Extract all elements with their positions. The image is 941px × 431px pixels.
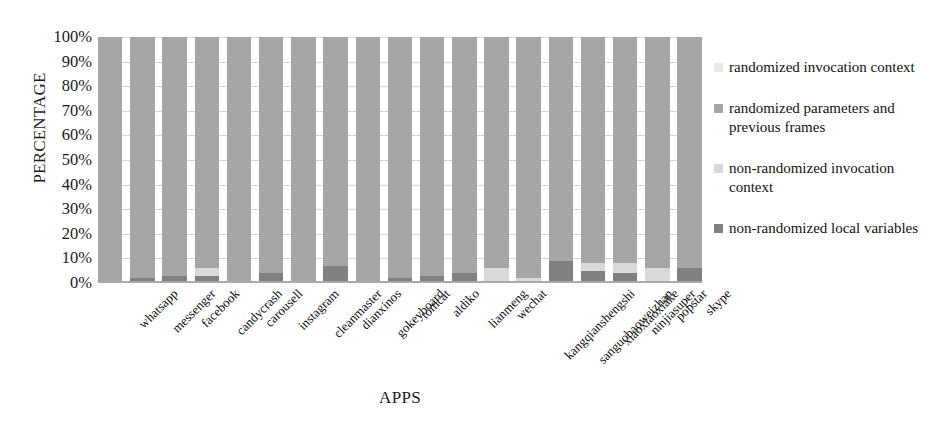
bar-segment	[388, 37, 412, 278]
bar-segment	[516, 37, 540, 278]
bar-segment	[356, 37, 380, 283]
x-axis-tick: skype	[702, 286, 735, 319]
legend: randomized invocation contextrandomized …	[714, 58, 939, 260]
bar-column[interactable]	[130, 37, 154, 283]
legend-label: non-randomized invocation context	[729, 159, 929, 197]
bar-column[interactable]	[227, 37, 251, 283]
y-axis-tick: 20%	[36, 225, 92, 243]
legend-label: randomized parameters and previous frame…	[729, 99, 929, 137]
bar-segment	[581, 37, 605, 263]
bar-segment	[130, 37, 154, 278]
plot-area	[98, 37, 702, 283]
y-axis-tick: 60%	[36, 126, 92, 144]
legend-label: randomized invocation context	[729, 58, 915, 77]
y-axis-tick: 100%	[36, 28, 92, 46]
legend-swatch-icon	[714, 224, 723, 233]
bar-column[interactable]	[259, 37, 283, 283]
bar-column[interactable]	[549, 37, 573, 283]
y-axis-tick-labels: 100%90%80%70%60%50%40%30%20%10%0%	[36, 28, 92, 293]
bar-segment	[613, 37, 637, 263]
bar-segment	[549, 37, 573, 261]
y-axis-tick: 10%	[36, 249, 92, 267]
bar-segment	[549, 261, 573, 283]
bar-column[interactable]	[98, 37, 122, 283]
x-axis-line	[98, 281, 702, 283]
bar-column[interactable]	[645, 37, 669, 283]
bar-segment	[484, 268, 508, 280]
y-axis-tick: 30%	[36, 200, 92, 218]
bar-segment	[259, 37, 283, 273]
bar-segment	[323, 266, 347, 283]
bar-group	[98, 37, 702, 283]
legend-item[interactable]: randomized invocation context	[714, 58, 939, 77]
bar-column[interactable]	[356, 37, 380, 283]
bar-column[interactable]	[291, 37, 315, 283]
bar-column[interactable]	[388, 37, 412, 283]
bar-column[interactable]	[613, 37, 637, 283]
stacked-bar-chart: PERCENTAGE 100%90%80%70%60%50%40%30%20%1…	[0, 0, 941, 431]
bar-segment	[420, 37, 444, 276]
legend-swatch-icon	[714, 63, 723, 72]
bar-segment	[291, 37, 315, 283]
legend-swatch-icon	[714, 104, 723, 113]
bar-segment	[645, 37, 669, 268]
y-axis-tick: 40%	[36, 176, 92, 194]
y-axis-tick: 50%	[36, 151, 92, 169]
x-axis-title: APPS	[98, 388, 702, 408]
bar-segment	[162, 37, 186, 276]
legend-item[interactable]: non-randomized local variables	[714, 219, 939, 238]
bar-column[interactable]	[323, 37, 347, 283]
bar-column[interactable]	[677, 37, 701, 283]
y-axis-tick: 0%	[36, 274, 92, 292]
legend-item[interactable]: randomized parameters and previous frame…	[714, 99, 939, 137]
legend-item[interactable]: non-randomized invocation context	[714, 159, 939, 197]
bar-column[interactable]	[162, 37, 186, 283]
bar-segment	[613, 263, 637, 273]
bar-segment	[677, 37, 701, 268]
x-axis-tick: aldiko	[448, 286, 482, 320]
bar-column[interactable]	[420, 37, 444, 283]
bar-segment	[227, 37, 251, 281]
bar-column[interactable]	[452, 37, 476, 283]
bar-segment	[98, 37, 122, 283]
y-axis-tick: 90%	[36, 53, 92, 71]
bar-segment	[195, 37, 219, 268]
legend-label: non-randomized local variables	[729, 219, 918, 238]
x-axis-tick-labels: whatsappmessengerfacebookcandycrashcarou…	[98, 286, 702, 382]
bar-segment	[323, 37, 347, 266]
bar-column[interactable]	[581, 37, 605, 283]
bar-column[interactable]	[195, 37, 219, 283]
bar-segment	[581, 263, 605, 270]
bar-segment	[484, 37, 508, 268]
bar-segment	[452, 37, 476, 273]
y-axis-tick: 70%	[36, 102, 92, 120]
y-axis-tick: 80%	[36, 77, 92, 95]
bar-segment	[195, 268, 219, 275]
legend-swatch-icon	[714, 164, 723, 173]
bar-column[interactable]	[516, 37, 540, 283]
bar-column[interactable]	[484, 37, 508, 283]
x-axis-tick: tomcat	[417, 286, 453, 322]
